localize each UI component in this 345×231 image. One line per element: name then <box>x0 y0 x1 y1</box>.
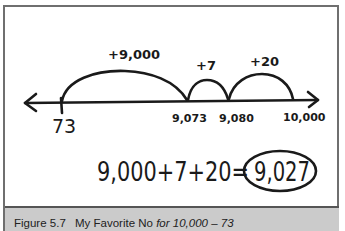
point-label-10000: 10,000 <box>283 111 326 124</box>
arc-plus-9000 <box>62 71 187 101</box>
caption-subtitle: for 10,000 – 73 <box>156 217 233 229</box>
point-label-73: 73 <box>52 115 76 137</box>
point-label-9073: 9,073 <box>172 112 207 125</box>
caption-title: My Favorite No <box>75 217 153 229</box>
number-line-figure: +9,000 +7 +20 73 9,073 9,080 10,000 9,00… <box>0 0 345 206</box>
caption-figure-number: Figure 5.7 <box>14 217 66 229</box>
jump-label-20: +20 <box>250 54 279 69</box>
number-line <box>25 92 318 113</box>
arc-plus-7 <box>188 80 228 100</box>
equation-answer: 9,027 <box>254 157 310 187</box>
jump-label-7: +7 <box>196 58 216 73</box>
jump-arcs <box>62 71 293 101</box>
point-label-9080: 9,080 <box>219 112 254 125</box>
jump-label-9000: +9,000 <box>108 47 160 62</box>
arc-plus-20 <box>229 74 293 99</box>
equation-expression: 9,000+7+20= <box>97 157 249 187</box>
figure-caption: Figure 5.7 My Favorite No for 10,000 – 7… <box>5 206 339 231</box>
